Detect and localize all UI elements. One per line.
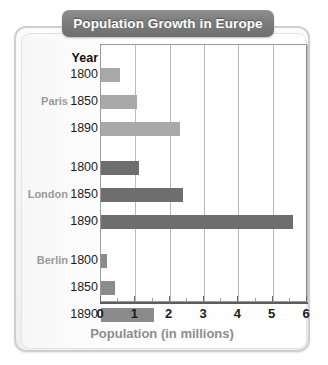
x-tick-label-4: 4 bbox=[225, 306, 249, 321]
row-label: London1850 bbox=[20, 186, 100, 202]
category-label-column: Year1800Paris185018901800London18501890B… bbox=[20, 50, 100, 302]
year-label-paris-1800: 1800 bbox=[70, 66, 98, 82]
year-label-london-1890: 1890 bbox=[70, 213, 98, 229]
plot-area bbox=[100, 44, 307, 302]
x-tick-3 bbox=[203, 296, 204, 303]
bar-paris-1850 bbox=[101, 95, 137, 109]
gridline-5 bbox=[273, 45, 274, 301]
x-axis-line bbox=[100, 302, 308, 304]
year-label-london-1850: 1850 bbox=[70, 186, 98, 202]
gridline-6 bbox=[307, 45, 308, 301]
row-label: 1890 bbox=[20, 213, 100, 229]
x-tick-label-5: 5 bbox=[260, 306, 284, 321]
gridline-2 bbox=[170, 45, 171, 301]
x-tick-label-1: 1 bbox=[122, 306, 146, 321]
row-label: 1850 bbox=[20, 279, 100, 295]
chart-figure: Population Growth in Europe Year1800Pari… bbox=[0, 0, 328, 365]
x-minor-tick-4.5 bbox=[255, 298, 256, 302]
x-tick-1 bbox=[134, 296, 135, 303]
year-label-berlin-1800: 1800 bbox=[70, 252, 98, 268]
gridline-4 bbox=[238, 45, 239, 301]
year-column-header: Year bbox=[20, 50, 100, 66]
city-label-london: London bbox=[28, 186, 68, 202]
x-tick-label-3: 3 bbox=[191, 306, 215, 321]
x-tick-4 bbox=[237, 296, 238, 303]
gridline-3 bbox=[204, 45, 205, 301]
bar-london-1800 bbox=[101, 161, 139, 175]
row-label: Paris1850 bbox=[20, 93, 100, 109]
bar-berlin-1850 bbox=[101, 281, 115, 295]
x-axis-title: Population (in millions) bbox=[14, 326, 310, 341]
city-label-berlin: Berlin bbox=[37, 252, 68, 268]
bar-paris-1890 bbox=[101, 122, 180, 136]
chart-title: Population Growth in Europe bbox=[62, 10, 274, 37]
x-minor-tick-3.5 bbox=[220, 298, 221, 302]
x-minor-tick-2.5 bbox=[186, 298, 187, 302]
x-minor-tick-5.5 bbox=[289, 298, 290, 302]
bar-paris-1800 bbox=[101, 68, 120, 82]
year-label-paris-1850: 1850 bbox=[70, 93, 98, 109]
bar-london-1890 bbox=[101, 215, 293, 229]
x-tick-label-2: 2 bbox=[157, 306, 181, 321]
x-tick-label-6: 6 bbox=[294, 306, 318, 321]
bar-london-1850 bbox=[101, 188, 183, 202]
x-tick-5 bbox=[272, 296, 273, 303]
x-tick-2 bbox=[169, 296, 170, 303]
year-label-london-1800: 1800 bbox=[70, 159, 98, 175]
row-label: 1890 bbox=[20, 120, 100, 136]
x-minor-tick-1.5 bbox=[152, 298, 153, 302]
row-label: 1800 bbox=[20, 66, 100, 82]
x-tick-label-0: 0 bbox=[88, 306, 112, 321]
x-tick-6 bbox=[306, 296, 307, 303]
row-label: 1800 bbox=[20, 159, 100, 175]
x-minor-tick-0.5 bbox=[117, 298, 118, 302]
city-label-paris: Paris bbox=[41, 93, 68, 109]
row-label: Berlin1800 bbox=[20, 252, 100, 268]
bar-berlin-1800 bbox=[101, 254, 107, 268]
x-tick-0 bbox=[100, 296, 101, 303]
year-label-paris-1890: 1890 bbox=[70, 120, 98, 136]
year-label-berlin-1850: 1850 bbox=[70, 279, 98, 295]
